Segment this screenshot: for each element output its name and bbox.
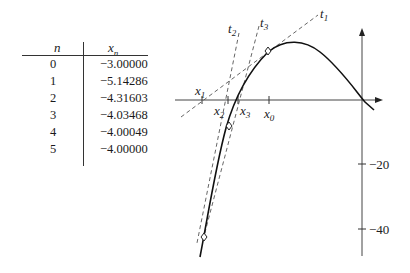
label-t3: t3 [260,15,269,32]
label-x3: x3 [239,103,251,120]
label-t2: t2 [228,21,237,38]
point-x1-marker [201,233,207,241]
label-x2: x2 [213,103,225,120]
label-x0: x0 [263,106,275,123]
function-curve [200,42,374,257]
newton-method-plot: x1 x2 x3 x0 t1 t2 t3 −20 −40 [0,0,410,273]
label-y-20: −20 [369,157,389,172]
label-y-40: −40 [369,222,389,237]
x-axis-arrow-icon [375,97,383,103]
label-x1: x1 [194,83,205,100]
label-t1: t1 [320,6,328,23]
tangent-t2 [197,33,239,243]
tangent-t3 [203,26,259,240]
y-axis-arrow-icon [359,28,365,36]
